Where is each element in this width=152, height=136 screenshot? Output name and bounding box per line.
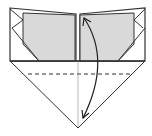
diagram-canvas	[0, 0, 152, 136]
bottom-triangle	[10, 61, 145, 128]
origami-diagram	[0, 0, 152, 136]
